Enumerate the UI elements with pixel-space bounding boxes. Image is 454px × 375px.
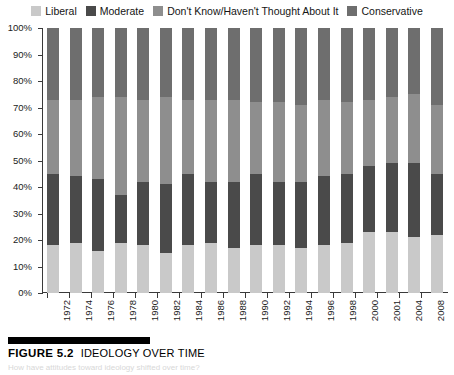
bar-segment	[363, 28, 375, 100]
x-axis-tick-label: 1986	[216, 300, 226, 321]
bar-segment	[115, 195, 127, 243]
bar-segment	[92, 97, 104, 179]
x-axis-tick	[201, 293, 202, 298]
bar-1988	[228, 28, 240, 293]
x-axis-tick	[223, 293, 224, 298]
bar-segment	[295, 248, 307, 293]
bar-segment	[273, 28, 285, 102]
y-axis-tick-label: 60%	[13, 129, 32, 139]
x-axis-tick-label: 1984	[194, 300, 204, 321]
x-axis-tick	[355, 293, 356, 298]
bar-segment	[47, 100, 59, 174]
x-axis-tick	[91, 293, 92, 298]
x-axis-tick-label: 1972	[62, 300, 72, 321]
bar-segment	[386, 232, 398, 293]
bar-segment	[115, 243, 127, 293]
bar-segment	[408, 94, 420, 163]
bar-segment	[341, 28, 353, 102]
bar-1994	[295, 28, 307, 293]
x-axis-ticks	[42, 293, 448, 299]
bar-segment	[182, 245, 194, 293]
chart-legend: Liberal Moderate Don't Know/Haven't Thou…	[0, 0, 454, 22]
bar-segment	[318, 28, 330, 100]
x-axis-tick-label: 1998	[348, 300, 358, 321]
bar-segment	[182, 28, 194, 100]
bar-segment	[431, 105, 443, 174]
bar-series-container	[42, 28, 448, 293]
y-axis-labels: 0%10%20%30%40%50%60%70%80%90%100%	[0, 28, 38, 293]
bar-segment	[160, 97, 172, 184]
x-axis-tick-label: 1982	[172, 300, 182, 321]
bar-segment	[228, 182, 240, 248]
legend-swatch-conservative	[347, 6, 357, 16]
bar-1982	[160, 28, 172, 293]
bar-segment	[408, 163, 420, 237]
x-axis-tick-label: 2008	[436, 300, 446, 321]
bar-segment	[137, 28, 149, 100]
y-axis-tick-label: 70%	[13, 103, 32, 113]
bar-segment	[250, 102, 262, 174]
bar-segment	[160, 184, 172, 253]
legend-swatch-liberal	[31, 6, 41, 16]
x-axis-tick-label: 2000	[370, 300, 380, 321]
bar-segment	[205, 100, 217, 182]
bar-1998	[341, 28, 353, 293]
figure-caption: FIGURE 5.2 IDEOLOGY OVER TIME How have a…	[8, 337, 454, 372]
bar-segment	[295, 105, 307, 182]
bar-segment	[250, 28, 262, 102]
bar-segment	[408, 237, 420, 293]
bar-segment	[228, 28, 240, 100]
bar-segment	[47, 28, 59, 100]
bar-segment	[92, 179, 104, 251]
bar-1980	[137, 28, 149, 293]
bar-segment	[363, 232, 375, 293]
x-axis-tick	[267, 293, 268, 298]
bar-segment	[205, 243, 217, 293]
x-axis-tick	[113, 293, 114, 298]
bar-1974	[70, 28, 82, 293]
bar-1986	[205, 28, 217, 293]
y-axis-tick-label: 10%	[13, 262, 32, 272]
bar-segment	[182, 100, 194, 174]
legend-item-conservative: Conservative	[347, 6, 422, 17]
legend-swatch-dont-know	[153, 6, 163, 16]
bar-segment	[115, 28, 127, 97]
bar-segment	[431, 28, 443, 105]
x-axis-tick-label: 1974	[84, 300, 94, 321]
legend-label-conservative: Conservative	[361, 6, 422, 17]
bar-segment	[386, 97, 398, 163]
bar-2001	[386, 28, 398, 293]
y-axis-tick-label: 0%	[18, 288, 32, 298]
y-axis-tick-label: 90%	[13, 50, 32, 60]
bar-segment	[318, 100, 330, 177]
bar-segment	[137, 100, 149, 182]
bar-segment	[408, 28, 420, 94]
caption-figure-number: FIGURE 5.2	[8, 347, 74, 359]
x-axis-tick	[311, 293, 312, 298]
x-axis-tick	[135, 293, 136, 298]
bar-segment	[318, 245, 330, 293]
bar-segment	[160, 28, 172, 97]
y-axis-tick-label: 80%	[13, 76, 32, 86]
y-axis-tick-label: 30%	[13, 209, 32, 219]
bar-segment	[92, 28, 104, 97]
caption-line: FIGURE 5.2 IDEOLOGY OVER TIME	[8, 347, 454, 359]
bar-segment	[363, 166, 375, 232]
bar-segment	[137, 182, 149, 246]
bar-2008	[431, 28, 443, 293]
bar-segment	[228, 100, 240, 182]
x-axis-tick-label: 1996	[326, 300, 336, 321]
bar-segment	[386, 163, 398, 232]
bar-segment	[341, 243, 353, 293]
bar-1972	[47, 28, 59, 293]
x-axis-tick	[289, 293, 290, 298]
bar-segment	[160, 253, 172, 293]
bar-segment	[295, 182, 307, 248]
bar-1976	[92, 28, 104, 293]
bar-segment	[228, 248, 240, 293]
bar-segment	[431, 174, 443, 235]
x-axis-tick-label: 1994	[304, 300, 314, 321]
bar-segment	[70, 243, 82, 293]
bar-segment	[431, 235, 443, 293]
bar-segment	[205, 182, 217, 243]
